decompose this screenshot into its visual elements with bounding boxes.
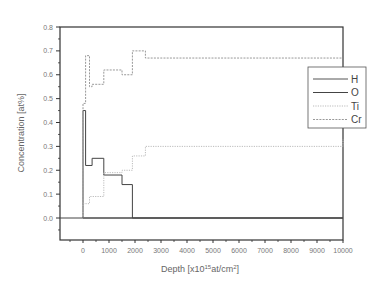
legend-label: Cr [351,114,362,125]
y-tick-label: 0.7 [43,47,53,54]
y-tick-label: 0.6 [43,71,53,78]
legend-label: O [351,87,359,98]
y-tick-label: 0.3 [43,143,53,150]
y-tick-label: 0.0 [43,215,53,222]
legend-label: Ti [351,101,359,112]
plot-frame [60,27,343,240]
x-tick-label: 0 [81,247,85,254]
series-o-line [83,111,343,218]
x-axis-title: Depth [x1015at/cm2] [161,264,239,274]
y-axis-title: Concentration [at%] [16,93,26,172]
y-tick-label: 0.1 [43,191,53,198]
x-tick-label: 4000 [179,247,195,254]
y-tick-label: 0.5 [43,95,53,102]
x-tick-label: 10000 [333,247,353,254]
y-axis: 0.00.10.20.30.40.50.60.70.8 [43,24,60,230]
series-layer [60,51,343,218]
x-tick-label: 6000 [231,247,247,254]
x-tick-label: 5000 [205,247,221,254]
series-cr-line [83,51,343,218]
x-tick-label: 2000 [127,247,143,254]
y-tick-label: 0.8 [43,24,53,31]
legend-label: H [351,74,358,85]
x-axis: 0100020003000400050006000700080009000100… [70,240,353,254]
x-tick-label: 8000 [283,247,299,254]
x-tick-label: 9000 [309,247,325,254]
legend: HOTiCr [308,67,366,128]
concentration-depth-chart: 0100020003000400050006000700080009000100… [0,0,372,286]
x-tick-label: 3000 [153,247,169,254]
x-tick-label: 7000 [257,247,273,254]
y-tick-label: 0.2 [43,167,53,174]
x-tick-label: 1000 [101,247,117,254]
plot-border [60,27,343,240]
y-tick-label: 0.4 [43,119,53,126]
